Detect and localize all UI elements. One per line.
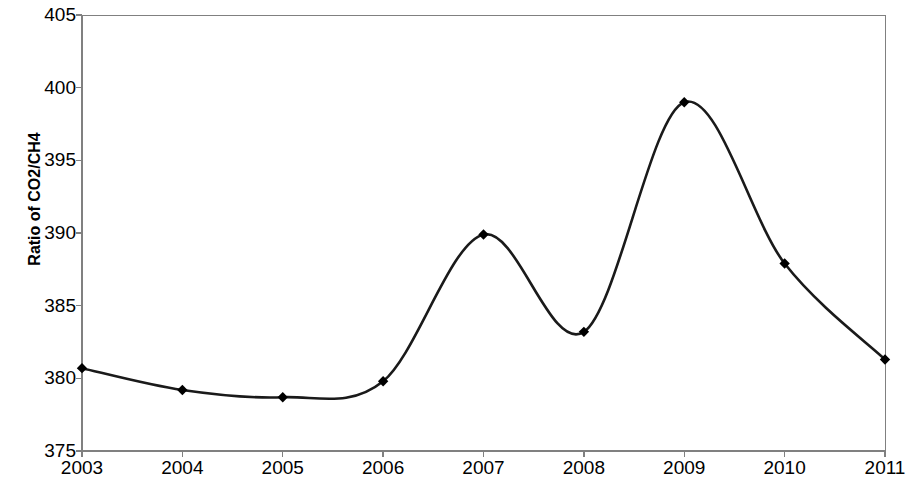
- data-series-line: [82, 101, 885, 398]
- data-point-marker: 2007: 389.9: [478, 229, 488, 239]
- data-point-marker: 2003: 380.7: [77, 363, 87, 373]
- data-point-marker: 2005: 378.7: [278, 392, 288, 402]
- data-point-marker: 2004: 379.2: [177, 385, 187, 395]
- data-point-markers: 2003: 380.72004: 379.22005: 378.72006: 3…: [77, 97, 890, 402]
- data-point-marker: 2009: 399: [679, 97, 689, 107]
